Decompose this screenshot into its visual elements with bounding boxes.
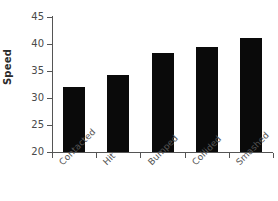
x-category-label: Hit	[101, 151, 117, 167]
x-tick-mark	[52, 153, 53, 158]
bar	[107, 75, 129, 152]
x-tick-mark	[185, 153, 186, 158]
y-tick-label: 40	[16, 39, 44, 49]
y-tick-label: 20	[16, 147, 44, 157]
bar-chart-figure: Speed 202530354045 ContactedHitBumpedCol…	[0, 0, 278, 201]
x-tick-mark	[273, 153, 274, 158]
x-tick-mark	[140, 153, 141, 158]
y-tick-label: 45	[16, 12, 44, 22]
x-tick-mark	[96, 153, 97, 158]
y-tick-label: 30	[16, 93, 44, 103]
y-tick-label: 35	[16, 66, 44, 76]
x-tick-mark	[229, 153, 230, 158]
y-tick-label: 25	[16, 120, 44, 130]
